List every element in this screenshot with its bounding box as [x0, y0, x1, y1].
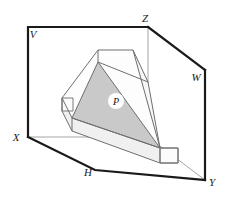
- figure-container: V Z W Y H X P: [0, 0, 226, 201]
- label-w-plane: W: [191, 71, 201, 83]
- label-plane-p: P: [112, 96, 119, 107]
- wedge-end-square-face: [160, 148, 178, 163]
- label-h-plane: H: [83, 166, 93, 178]
- technical-drawing-svg: V Z W Y H X P: [0, 0, 226, 201]
- label-x-corner: X: [12, 131, 21, 143]
- label-z-corner: Z: [142, 12, 149, 24]
